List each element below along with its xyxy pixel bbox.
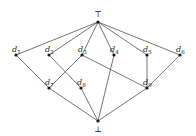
node-label-bot: ⊥ xyxy=(94,125,102,134)
edges xyxy=(16,22,180,121)
node-label-d1: d1 xyxy=(12,45,21,55)
edge-d8-bot xyxy=(81,88,98,121)
lattice-diagram: ⊤d1d2d3d4d5d6d7d8d9⊥ xyxy=(0,0,196,136)
edge-d7-bot xyxy=(49,88,98,121)
node-label-d6: d6 xyxy=(176,45,185,55)
node-label-d7: d7 xyxy=(45,78,54,88)
edge-d3-d9 xyxy=(82,55,147,88)
node-top xyxy=(96,20,99,23)
node-label-top: ⊤ xyxy=(94,10,102,19)
edge-d4-bot xyxy=(98,55,114,121)
edge-d9-bot xyxy=(98,88,147,121)
node-label-d8: d8 xyxy=(77,78,86,88)
node-label-d5: d5 xyxy=(143,45,152,55)
edge-d6-d9 xyxy=(147,55,180,88)
node-label-d4: d4 xyxy=(110,45,119,55)
node-bot xyxy=(96,119,99,122)
nodes: ⊤d1d2d3d4d5d6d7d8d9⊥ xyxy=(12,10,185,134)
node-label-d9: d9 xyxy=(143,78,152,88)
node-label-d2: d2 xyxy=(45,45,54,55)
